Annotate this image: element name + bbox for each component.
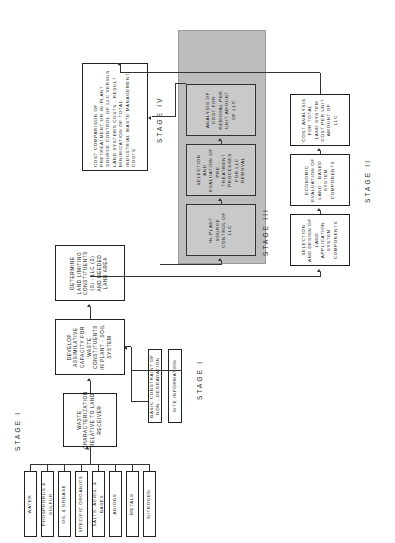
line-stage3-to-stage4-vert — [152, 116, 175, 117]
line-llc-down-to-stage2 — [90, 276, 320, 277]
box-assimilative-capacity: DEVELOP ASSIMILATIVE CAPACITY FOR WASTE … — [55, 319, 125, 375]
stage-label-3: STAGE III — [262, 208, 269, 256]
constituent-tick-8 — [149, 465, 150, 471]
box-waste-characterization: WASTE CHARACTERIZATION RELATIVE TO LAND … — [63, 393, 117, 447]
stage-label-2: STAGE II — [364, 159, 371, 203]
constituent-box-specific-organics: SPECIFIC ORGANICS — [75, 471, 88, 537]
box-site-information: SITE INFORMATION — [168, 349, 182, 423]
box-cost-comparison-stage4: COST COMPARISON OF PRETREATMENT OR IN-PL… — [82, 63, 148, 171]
box-basic-constraint: BASIC CONSTRAINT OF NON - DEGRADATION — [148, 349, 162, 423]
arrow-into-stage3 — [218, 258, 222, 261]
line-constraint-up — [131, 401, 148, 402]
arrow-stage3-b-c — [218, 138, 222, 141]
arrow-wastechar-to-capacity — [87, 378, 91, 381]
box-economic-evaluation: ECONOMIC EVALUATION OF LAND - BASED SYST… — [290, 154, 350, 206]
flowchart-figure: WATER PHOSPHORUS & SULFUR OIL & GREASE S… — [0, 0, 395, 543]
constituent-box-phosphorus-sulfur: PHOSPHORUS & SULFUR — [41, 471, 54, 537]
box-pretreatment-processes: SELECTION AND EVALUATION OF PRE - TREATM… — [186, 144, 256, 196]
line-stage3-a-b — [221, 201, 222, 204]
constituent-to-waste-char-line — [90, 447, 91, 465]
line-into-stage3 — [221, 261, 222, 265]
line-capacity-to-llc — [90, 307, 91, 319]
line-stage2-to-stage4-vert — [120, 72, 320, 73]
line-into-stage2 — [320, 272, 321, 277]
constituent-tick-1 — [30, 465, 31, 471]
arrow-stage2-a-b — [317, 208, 321, 211]
arrow-stage2-to-stage4 — [117, 63, 121, 66]
line-stage2-out — [320, 73, 321, 94]
stage-label-1-bottom-text: STAGE I — [196, 360, 203, 400]
line-stage2-a-b — [320, 211, 321, 214]
constituent-tick-7 — [132, 465, 133, 471]
box-analysis-cost-removal: ANALYSIS OF COST FOR REMOVAL PER UNIT AM… — [186, 84, 256, 136]
box-land-limiting-constituents: DETERMINE LAND LIMITING CONSTITUENTS (S)… — [55, 245, 125, 301]
arrow-into-stage2 — [317, 269, 321, 272]
constituent-box-metals: METALS — [126, 471, 139, 537]
constituent-box-oil-grease: OIL & GREASE — [58, 471, 71, 537]
line-siteinfo-up — [131, 370, 182, 371]
line-stage3-to-stage4 — [175, 84, 176, 117]
constituent-tick-4 — [81, 465, 82, 471]
arrow-inputs-to-capacity — [124, 346, 127, 350]
line-stage2-b-c — [320, 151, 321, 154]
box-selection-design-land-application: SELECTION AND DESIGN OF LAND APPLICATION… — [290, 214, 350, 266]
constituent-tick-2 — [47, 465, 48, 471]
arrow-capacity-to-llc — [87, 304, 91, 307]
constituent-box-water: WATER — [24, 471, 37, 537]
arrow-stage3-a-b — [218, 198, 222, 201]
constituent-tick-3 — [64, 465, 65, 471]
line-feed-stage3-vert — [160, 264, 221, 265]
stage-label-4: STAGE IV — [156, 96, 163, 143]
box-cost-analysis-land: COST ANALYSIS FOR TOTAL LAND SYSTEM COST… — [290, 94, 350, 146]
line-stage3-b-c — [221, 141, 222, 144]
constituent-box-anions: ANIONS — [109, 471, 122, 537]
constituent-box-nitrogen: NITROGEN — [143, 471, 156, 537]
constituent-tick-6 — [115, 465, 116, 471]
constituent-tick-5 — [98, 465, 99, 471]
stage-label-1-top: STAGE I — [14, 411, 21, 451]
line-stage3-up — [175, 83, 186, 84]
line-inputs-join — [131, 347, 132, 402]
arrow-stage2-b-c — [317, 148, 321, 151]
arrow-stage3-to-stage4 — [148, 116, 151, 120]
line-wastechar-to-capacity — [90, 381, 91, 393]
box-in-plant-source-control: IN-PLANT SOURCE CONTROL OF LLC — [186, 204, 256, 256]
constituent-box-salts-acids-bases: SALTS, ACIDS, & BASES — [92, 471, 105, 537]
